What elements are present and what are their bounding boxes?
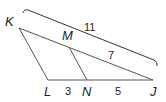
label-l: L — [44, 84, 51, 99]
label-n: N — [82, 84, 92, 99]
measure-ln: 3 — [65, 85, 71, 97]
label-j: J — [149, 84, 157, 99]
measure-kj: 11 — [84, 21, 95, 33]
measure-mj: 7 — [108, 49, 114, 61]
segment-mn — [69, 47, 87, 80]
segment-kl — [19, 28, 48, 80]
label-m: M — [62, 28, 73, 43]
triangle-diagram: K M L N J 11 7 3 5 — [0, 0, 166, 102]
segment-kj — [19, 28, 153, 80]
label-k: K — [5, 14, 15, 29]
measure-nj: 5 — [115, 85, 121, 97]
